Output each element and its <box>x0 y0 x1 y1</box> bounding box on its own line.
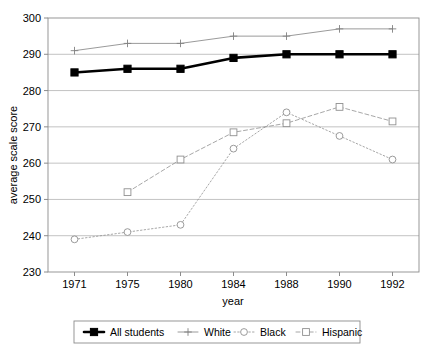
x-tick-label: 1971 <box>62 278 86 290</box>
data-point-marker <box>177 65 184 72</box>
data-point-marker <box>303 329 310 336</box>
legend-label: Hispanic <box>322 326 362 338</box>
data-point-marker <box>230 145 237 152</box>
y-axis-tick-labels: 230240250260270280290300 <box>23 12 41 278</box>
y-tick-label: 280 <box>23 85 41 97</box>
data-point-marker <box>177 156 184 163</box>
data-point-marker <box>241 329 248 336</box>
line-chart: 230240250260270280290300 197119751980198… <box>0 0 432 350</box>
y-tick-label: 230 <box>23 266 41 278</box>
data-point-marker <box>177 221 184 228</box>
x-tick-label: 1980 <box>168 278 192 290</box>
data-point-marker <box>124 189 131 196</box>
legend-label: All students <box>110 326 164 338</box>
x-tick-label: 1984 <box>221 278 245 290</box>
y-tick-label: 290 <box>23 48 41 60</box>
data-point-marker <box>124 65 131 72</box>
y-tick-label: 260 <box>23 157 41 169</box>
data-point-marker <box>336 51 343 58</box>
chart-container: 230240250260270280290300 197119751980198… <box>0 0 432 350</box>
y-axis-title: average scale score <box>7 106 19 204</box>
legend-label: White <box>204 326 231 338</box>
x-tick-label: 1992 <box>380 278 404 290</box>
y-tick-label: 270 <box>23 121 41 133</box>
legend-label: Black <box>260 326 286 338</box>
y-tick-label: 300 <box>23 12 41 24</box>
x-tick-label: 1990 <box>327 278 351 290</box>
y-tick-marks <box>44 18 48 272</box>
data-point-marker <box>389 118 396 125</box>
data-point-marker <box>71 236 78 243</box>
y-tick-label: 240 <box>23 230 41 242</box>
y-tick-label: 250 <box>23 193 41 205</box>
data-point-marker <box>230 54 237 61</box>
data-point-marker <box>336 133 343 140</box>
data-point-marker <box>389 51 396 58</box>
x-tick-label: 1988 <box>274 278 298 290</box>
chart-legend: All studentsWhiteBlackHispanic <box>74 321 362 343</box>
data-point-marker <box>90 328 97 335</box>
data-point-marker <box>71 69 78 76</box>
x-tick-marks <box>75 272 393 276</box>
x-tick-label: 1975 <box>115 278 139 290</box>
data-point-marker <box>389 156 396 163</box>
data-point-marker <box>230 129 237 136</box>
data-point-marker <box>124 229 131 236</box>
data-point-marker <box>283 120 290 127</box>
data-point-marker <box>336 104 343 111</box>
x-axis-title: year <box>222 295 244 307</box>
data-point-marker <box>283 109 290 116</box>
data-point-marker <box>283 51 290 58</box>
x-axis-tick-labels: 1971197519801984198819901992 <box>62 278 404 290</box>
